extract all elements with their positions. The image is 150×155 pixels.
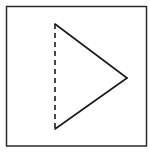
- triangle-upper-edge: [55, 24, 127, 78]
- triangle-lower-edge: [55, 78, 127, 129]
- triangle-diagram: [0, 0, 150, 155]
